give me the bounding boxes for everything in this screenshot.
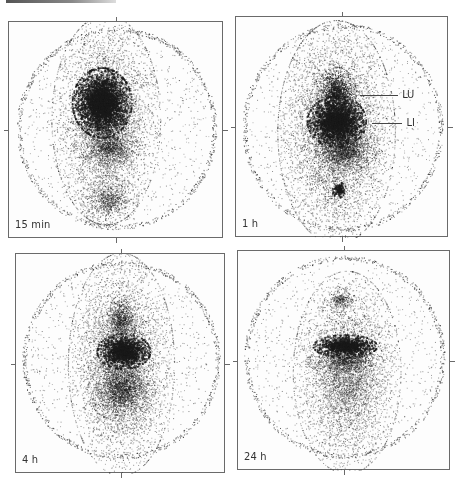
time-label: 24 h [244, 450, 267, 463]
annotation-label: LI [406, 116, 414, 129]
scan-image [236, 17, 449, 238]
annotation-leader-line [360, 95, 398, 96]
axis-tick-top [121, 249, 122, 254]
axis-tick-bottom [116, 238, 117, 243]
scan-image [16, 254, 226, 474]
time-label: 15 min [15, 218, 51, 231]
axis-tick-top [116, 17, 117, 22]
axis-tick-left [11, 364, 16, 365]
axis-tick-right [223, 130, 228, 131]
scan-panel-p4h: 4 h [15, 253, 225, 473]
top-edge-bar [6, 0, 116, 3]
axis-tick-right [450, 361, 455, 362]
axis-tick-right [225, 364, 230, 365]
axis-tick-left [231, 127, 236, 128]
axis-tick-top [342, 12, 343, 17]
annotation-leader-line [372, 123, 402, 124]
scan-panel-p1h: 1 hLULI [235, 16, 448, 237]
axis-tick-left [233, 361, 238, 362]
time-label: 4 h [22, 453, 38, 466]
time-label: 1 h [242, 217, 258, 230]
axis-tick-top [344, 246, 345, 251]
axis-tick-left [4, 130, 9, 131]
axis-tick-right [448, 127, 453, 128]
axis-tick-bottom [344, 470, 345, 475]
scan-panel-p15min: 15 min [8, 21, 223, 238]
scan-image [238, 251, 451, 471]
axis-tick-bottom [342, 237, 343, 242]
axis-tick-bottom [121, 473, 122, 478]
annotation-label: LU [402, 88, 414, 101]
scan-panel-p24h: 24 h [237, 250, 450, 470]
scan-image [9, 22, 224, 239]
